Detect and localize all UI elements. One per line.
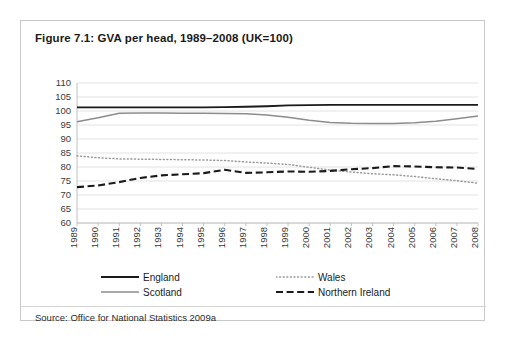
source-divider xyxy=(21,306,486,307)
y-axis-tick-labels: 6065707580859095100105110 xyxy=(55,77,71,228)
x-tick-label-2008: 2008 xyxy=(469,227,480,248)
data-series-group xyxy=(77,105,478,187)
legend-entry-wales[interactable]: Wales xyxy=(276,269,390,284)
x-tick-label-2004: 2004 xyxy=(385,227,396,248)
legend-label: Northern Ireland xyxy=(318,287,390,298)
x-tick-label-2005: 2005 xyxy=(406,227,417,248)
legend-entry-scotland[interactable]: Scotland xyxy=(101,284,182,299)
y-tick-label-65: 65 xyxy=(60,203,71,214)
legend-entry-england[interactable]: England xyxy=(101,269,182,284)
y-tick-label-75: 75 xyxy=(60,175,71,186)
x-tick-label-2000: 2000 xyxy=(300,227,311,248)
y-tick-label-60: 60 xyxy=(60,217,71,228)
chart-plot-area: 6065707580859095100105110 19891990199119… xyxy=(21,53,486,271)
x-tick-label-1994: 1994 xyxy=(174,227,185,248)
x-tick-label-2006: 2006 xyxy=(427,227,438,248)
legend-line-sample xyxy=(101,287,139,297)
x-tick-label-2001: 2001 xyxy=(321,227,332,248)
x-tick-label-1991: 1991 xyxy=(110,227,121,248)
y-tick-label-110: 110 xyxy=(56,77,71,88)
x-tick-label-1998: 1998 xyxy=(258,227,269,248)
y-tick-label-105: 105 xyxy=(55,91,71,102)
legend-label: Wales xyxy=(318,272,345,283)
legend-line-sample xyxy=(276,272,314,282)
series-line-england xyxy=(77,105,478,108)
figure-title: Figure 7.1: GVA per head, 1989–2008 (UK=… xyxy=(35,32,293,44)
legend-line-sample xyxy=(101,272,139,282)
legend-label: England xyxy=(143,272,180,283)
legend-column-right: WalesNorthern Ireland xyxy=(276,269,390,299)
x-axis-tick-labels: 1989199019911992199319941995199619971998… xyxy=(68,223,480,248)
x-tick-label-2002: 2002 xyxy=(342,227,353,248)
source-note: Source: Office for National Statistics 2… xyxy=(35,312,216,323)
series-line-scotland xyxy=(77,113,478,124)
x-tick-label-1995: 1995 xyxy=(195,227,206,248)
legend-column-left: EnglandScotland xyxy=(101,269,182,299)
y-tick-label-85: 85 xyxy=(60,147,71,158)
series-line-wales xyxy=(77,156,478,183)
legend-label: Scotland xyxy=(143,287,182,298)
y-tick-label-70: 70 xyxy=(60,189,71,200)
chart-legend: EnglandScotland WalesNorthern Ireland xyxy=(21,269,486,303)
y-tick-label-95: 95 xyxy=(60,119,71,130)
x-tick-label-1992: 1992 xyxy=(131,227,142,248)
line-chart-svg: 6065707580859095100105110 19891990199119… xyxy=(21,53,486,271)
legend-entry-northern-ireland[interactable]: Northern Ireland xyxy=(276,284,390,299)
x-tick-label-2003: 2003 xyxy=(363,227,374,248)
figure-container: Figure 7.1: GVA per head, 1989–2008 (UK=… xyxy=(20,20,485,321)
x-tick-label-2007: 2007 xyxy=(448,227,459,248)
x-tick-label-1993: 1993 xyxy=(152,227,163,248)
x-tick-label-1996: 1996 xyxy=(216,227,227,248)
legend-line-sample xyxy=(276,287,314,297)
x-tick-label-1990: 1990 xyxy=(89,227,100,248)
y-tick-label-90: 90 xyxy=(60,133,71,144)
x-tick-label-1997: 1997 xyxy=(237,227,248,248)
y-tick-label-100: 100 xyxy=(55,105,71,116)
x-tick-label-1999: 1999 xyxy=(279,227,290,248)
x-tick-label-1989: 1989 xyxy=(68,227,79,248)
y-tick-label-80: 80 xyxy=(60,161,71,172)
